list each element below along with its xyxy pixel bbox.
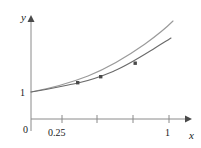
y-tick-label-1: 1 bbox=[20, 88, 25, 98]
data-point-marker bbox=[76, 81, 79, 84]
x-axis-label: x bbox=[189, 130, 194, 141]
y-axis-label: y bbox=[21, 12, 26, 23]
curve-euler-approximation bbox=[31, 38, 171, 92]
curve-exact-solution bbox=[31, 21, 173, 92]
y-axis-arrow-icon bbox=[28, 15, 35, 22]
x-axis-arrow-icon bbox=[185, 116, 192, 123]
data-point-marker bbox=[134, 62, 137, 65]
data-point-marker bbox=[99, 75, 102, 78]
plot-canvas bbox=[0, 0, 201, 148]
origin-label: 0 bbox=[23, 125, 28, 135]
x-tick-label-025: 0.25 bbox=[48, 128, 66, 138]
x-tick-label-1: 1 bbox=[165, 128, 170, 138]
graph-figure: y x 0 1 0.25 1 bbox=[0, 0, 201, 148]
